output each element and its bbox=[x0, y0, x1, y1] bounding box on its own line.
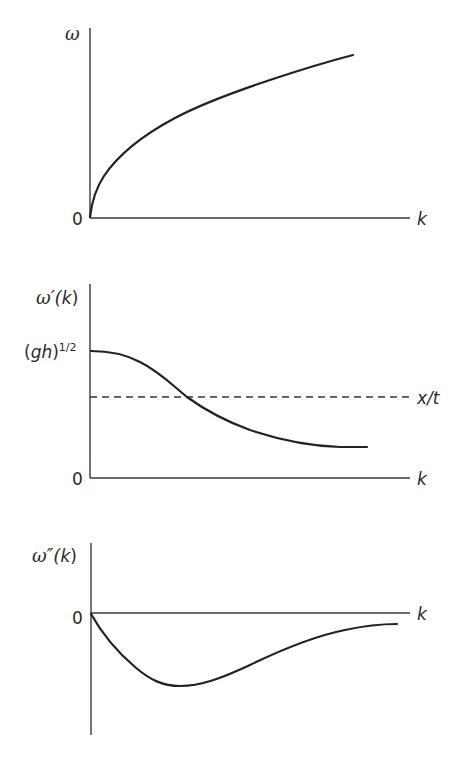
tick-gh: gh bbox=[31, 342, 53, 362]
x-axis-label: k bbox=[417, 604, 428, 624]
y-tick-label-shallow-water-speed: (gh)1/2 bbox=[24, 341, 77, 362]
reference-line-label: x/t bbox=[416, 388, 441, 408]
y-axis-label: ω′(k) bbox=[36, 287, 78, 308]
y-axis-label-omega: ω′( bbox=[36, 287, 63, 308]
panel-group-velocity: ω′(k) (gh)1/2 0 k x/t bbox=[24, 284, 441, 489]
y-axis-label: ω bbox=[65, 23, 80, 44]
tick-open-paren: ( bbox=[24, 342, 31, 362]
panel-dispersion: ω 0 k bbox=[65, 23, 428, 229]
x-axis-label: k bbox=[417, 209, 428, 229]
x-axis-label: k bbox=[417, 469, 428, 489]
origin-label: 0 bbox=[72, 469, 83, 489]
origin-label: 0 bbox=[72, 608, 83, 628]
y-axis-label: ω″(k) bbox=[32, 545, 77, 566]
group-velocity-curve bbox=[91, 351, 367, 447]
panel-second-derivative: ω″(k) 0 k bbox=[32, 543, 428, 735]
figure-canvas: ω 0 k ω′(k) (gh)1/2 0 k x/t ω″(k) 0 k bbox=[0, 0, 461, 762]
y-axis-label-omega: ω″( bbox=[32, 545, 61, 566]
dispersion-curve bbox=[90, 55, 353, 217]
tick-exponent: 1/2 bbox=[59, 341, 77, 354]
tick-close-paren: ) bbox=[52, 342, 59, 362]
y-axis-label-close: ) bbox=[70, 546, 77, 566]
origin-label: 0 bbox=[72, 209, 83, 229]
second-derivative-curve bbox=[91, 614, 397, 686]
y-axis-label-close: ) bbox=[72, 288, 79, 308]
